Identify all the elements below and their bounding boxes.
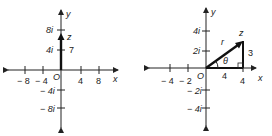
right-y-tick-label: − 2i xyxy=(187,86,203,96)
right-x-axis-label: x xyxy=(257,73,263,83)
right-base-label: 4 xyxy=(222,71,227,81)
right-origin-label: O xyxy=(197,71,204,81)
right-vector-r xyxy=(206,45,238,68)
left-y-tick-label: − 4i xyxy=(40,86,56,96)
left-x-tick-label: 4 xyxy=(78,76,83,86)
left-point-z-label: z xyxy=(66,32,72,42)
left-x-axis-label: x xyxy=(112,74,118,84)
left-length-label: 7 xyxy=(69,45,74,55)
left-x-tick-label: − 8 xyxy=(17,76,30,86)
right-hyp-label: r xyxy=(221,37,225,47)
right-y-tick-label: − 4i xyxy=(187,104,203,114)
left-x-tick-label: − 4 xyxy=(35,76,48,86)
left-x-tick-label: 8 xyxy=(96,76,101,86)
left-diagram: − 8 − 4 O 4 8 x y 8i 4i − 4i − 8i z 7 xyxy=(8,9,118,128)
left-y-tick-label: 4i xyxy=(46,45,54,55)
left-y-tick-label: − 8i xyxy=(40,104,56,114)
right-x-tick-label: − 4 xyxy=(161,76,174,86)
left-y-axis-label: y xyxy=(65,9,71,19)
right-x-tick-label: − 2 xyxy=(179,76,192,86)
right-x-tick-label: 4 xyxy=(240,76,245,86)
right-y-tick-label: 2i xyxy=(192,46,201,56)
left-vector-arrowhead-icon xyxy=(58,33,65,40)
right-y-axis-label: y xyxy=(210,7,216,17)
right-y-tick-label: 4i xyxy=(193,26,201,36)
left-y-tick-label: 8i xyxy=(46,25,54,35)
right-point-z-label: z xyxy=(238,28,244,38)
left-origin-label: O xyxy=(53,72,60,82)
theta-label: θ xyxy=(223,56,228,66)
right-diagram: − 4 − 2 O 4 4 x y 4i 2i − 2i − 4i z r 3 … xyxy=(149,7,263,126)
right-height-label: 3 xyxy=(248,48,253,58)
